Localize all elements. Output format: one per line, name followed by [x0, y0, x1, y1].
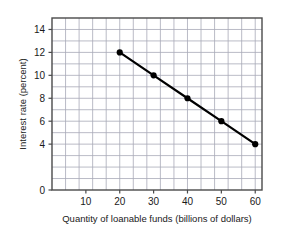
data-point [151, 72, 157, 78]
x-tick-label: 50 [216, 196, 228, 207]
chart-figure: 102030405060 0468101214 Quantity of loan… [0, 0, 286, 237]
y-axis-title: Interest rate (percent) [17, 58, 28, 149]
x-tick-label: 10 [80, 196, 92, 207]
data-point [184, 95, 190, 101]
y-tick-label: 8 [39, 93, 45, 104]
x-tick-label: 30 [148, 196, 160, 207]
y-tick-label: 12 [34, 47, 46, 58]
y-tick-label: 0 [39, 185, 45, 196]
loanable-funds-demand-chart: 102030405060 0468101214 Quantity of loan… [0, 0, 286, 237]
x-tick-label: 60 [250, 196, 262, 207]
y-tick-label: 14 [34, 24, 46, 35]
data-point [218, 118, 224, 124]
x-axis-title: Quantity of loanable funds (billions of … [62, 213, 252, 224]
y-tick-label: 10 [34, 70, 46, 81]
x-tick-label: 40 [182, 196, 194, 207]
data-point [252, 141, 258, 147]
x-tick-label: 20 [114, 196, 126, 207]
data-point [117, 49, 123, 55]
y-tick-label: 6 [39, 116, 45, 127]
y-tick-label: 4 [39, 139, 45, 150]
